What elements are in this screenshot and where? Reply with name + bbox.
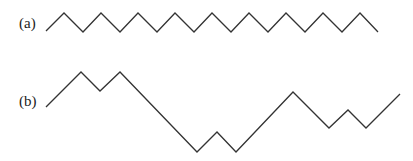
zigzag-path-a <box>46 13 378 32</box>
zigzag-path-b <box>46 72 400 152</box>
diagram-canvas <box>0 0 413 161</box>
